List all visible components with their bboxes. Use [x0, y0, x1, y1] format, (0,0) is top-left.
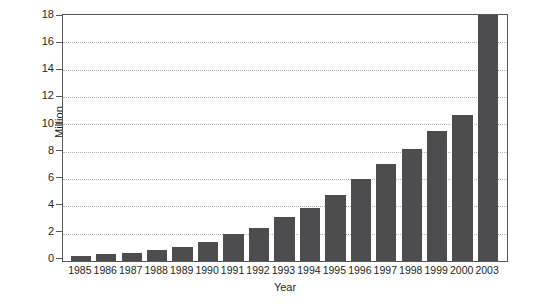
bar	[198, 242, 218, 261]
bar	[71, 256, 91, 261]
bar	[300, 208, 320, 261]
y-tick-label: 6	[14, 172, 54, 183]
bar	[376, 164, 396, 261]
x-tick-label: 2003	[472, 264, 502, 277]
bar	[274, 217, 294, 261]
bar	[147, 250, 167, 261]
bar	[96, 254, 116, 261]
y-tick-label: 10	[14, 118, 54, 129]
bar-chart-figure: Million 18 16 14 12 10 8 6 4 2 0 1985198…	[0, 0, 544, 304]
bar	[172, 247, 192, 261]
y-tick-label: 14	[14, 63, 54, 74]
y-tick-label: 2	[14, 226, 54, 237]
y-tick-label: 18	[14, 9, 54, 20]
bar	[427, 131, 447, 261]
plot-area	[62, 14, 508, 262]
bars-layer	[63, 15, 507, 261]
bar	[351, 179, 371, 261]
bar	[122, 253, 142, 261]
y-tick-label: 16	[14, 36, 54, 47]
bar	[478, 15, 498, 261]
bar	[452, 115, 472, 261]
x-axis-tick-group: 1985198619871988198919901991199219931994…	[62, 264, 508, 280]
bar	[402, 149, 422, 261]
y-tick-label: 8	[14, 145, 54, 156]
y-tick-label: 0	[14, 253, 54, 264]
bar	[223, 234, 243, 261]
y-tick-label: 4	[14, 199, 54, 210]
bar	[325, 195, 345, 261]
x-axis-title: Year	[62, 281, 508, 294]
bar	[249, 228, 269, 261]
y-tick-label: 12	[14, 90, 54, 101]
